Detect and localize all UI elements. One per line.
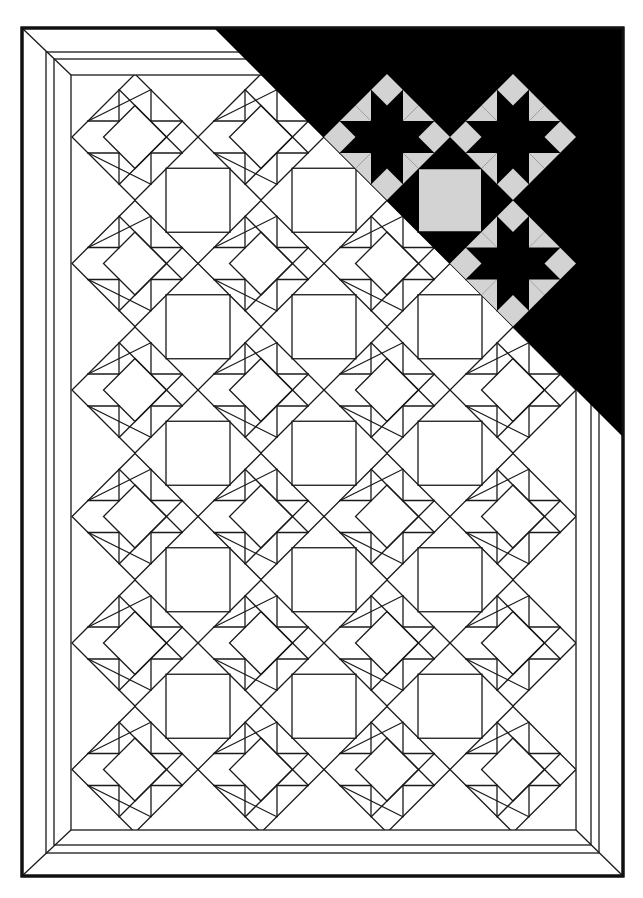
setting-square (166, 548, 230, 612)
star-outer-diamond (72, 580, 198, 706)
star-center-diamond (356, 232, 419, 295)
star-block (198, 580, 324, 706)
star-outer-diamond (198, 454, 324, 580)
star-center-diamond (482, 485, 545, 548)
star-block (198, 707, 324, 833)
star-block (450, 707, 576, 833)
setting-square (166, 674, 230, 738)
star-center-diamond (104, 359, 167, 422)
star-block (72, 201, 198, 327)
star-center-diamond (356, 359, 419, 422)
star-outer-diamond (324, 454, 450, 580)
star-block (72, 74, 198, 200)
star-center-diamond (104, 106, 167, 169)
setting-square (166, 421, 230, 485)
star-block (72, 454, 198, 580)
star-center-diamond (230, 738, 293, 801)
star-center-diamond (230, 612, 293, 675)
star-center-diamond (356, 612, 419, 675)
star-block (198, 454, 324, 580)
star-block (450, 454, 576, 580)
shaded-color-corner (22, 28, 623, 876)
setting-square (292, 168, 356, 232)
star-center-diamond (482, 738, 545, 801)
star-center-diamond (356, 738, 419, 801)
star-center-diamond (482, 612, 545, 675)
star-center-diamond (230, 106, 293, 169)
setting-square (292, 295, 356, 359)
star-block (72, 580, 198, 706)
setting-square (418, 548, 482, 612)
star-block (324, 327, 450, 453)
quilt-diagram: Quilt pattern: diagonal star blocks with… (0, 0, 643, 898)
star-outer-diamond (198, 201, 324, 327)
setting-square (418, 295, 482, 359)
star-outer-diamond (324, 707, 450, 833)
star-block (450, 580, 576, 706)
star-outer-diamond (72, 74, 198, 200)
star-center-diamond (230, 485, 293, 548)
setting-square (166, 168, 230, 232)
star-outer-diamond (450, 454, 576, 580)
star-center-diamond (230, 359, 293, 422)
star-center-diamond (104, 485, 167, 548)
star-outer-diamond (198, 707, 324, 833)
star-block (72, 327, 198, 453)
star-outer-diamond (198, 327, 324, 453)
star-center-diamond (104, 232, 167, 295)
colored-setting-square (419, 169, 481, 231)
star-outer-diamond (72, 707, 198, 833)
star-outer-diamond (324, 327, 450, 453)
star-block (72, 707, 198, 833)
star-outer-diamond (72, 327, 198, 453)
star-block (324, 580, 450, 706)
quilt-canvas (0, 0, 643, 898)
star-center-diamond (104, 612, 167, 675)
star-center-diamond (104, 738, 167, 801)
star-outer-diamond (450, 707, 576, 833)
star-outer-diamond (450, 580, 576, 706)
setting-square (292, 548, 356, 612)
star-outer-diamond (72, 454, 198, 580)
setting-square (418, 674, 482, 738)
star-center-diamond (356, 485, 419, 548)
star-block (324, 454, 450, 580)
star-block (324, 707, 450, 833)
star-block (198, 327, 324, 453)
setting-square (292, 674, 356, 738)
star-outer-diamond (198, 580, 324, 706)
star-center-diamond (482, 359, 545, 422)
star-block (198, 201, 324, 327)
setting-square (166, 295, 230, 359)
star-center-diamond (230, 232, 293, 295)
shaded-corner-triangle (214, 28, 623, 437)
setting-square (292, 421, 356, 485)
star-outer-diamond (324, 580, 450, 706)
star-outer-diamond (72, 201, 198, 327)
setting-square (418, 421, 482, 485)
